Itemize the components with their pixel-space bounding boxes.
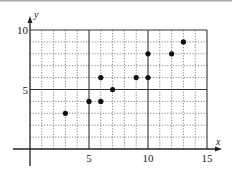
y-axis-label: y [33, 9, 39, 20]
major-grid [30, 30, 207, 149]
x-axis-arrow-icon [215, 147, 222, 152]
x-tick-label: 10 [143, 152, 155, 164]
x-axis-label: x [215, 136, 221, 147]
y-tick-label: 10 [17, 24, 29, 36]
data-point [181, 39, 186, 44]
data-point [169, 51, 174, 56]
y-axis-arrow-icon [28, 16, 33, 23]
data-point [63, 111, 68, 116]
y-tick-label: 5 [23, 84, 29, 96]
data-point [110, 87, 115, 92]
x-tick-label: 15 [202, 152, 214, 164]
data-point [145, 75, 150, 80]
data-point [134, 75, 139, 80]
scatter-chart: x y 5 10 15 5 10 [0, 0, 232, 173]
data-point [145, 51, 150, 56]
data-point [98, 75, 103, 80]
data-point [98, 99, 103, 104]
data-point [86, 99, 91, 104]
axes: x y [13, 9, 222, 166]
x-tick-label: 5 [86, 152, 92, 164]
